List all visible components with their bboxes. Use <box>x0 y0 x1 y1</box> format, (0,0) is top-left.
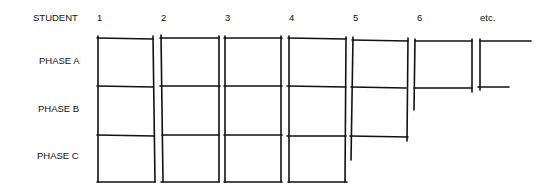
student-6-cells <box>414 39 472 110</box>
phase-grid <box>0 0 556 193</box>
student-1-cells <box>97 36 155 182</box>
student-5-cells <box>350 37 408 160</box>
student-2-cells <box>160 35 220 182</box>
student-4-cells <box>287 36 347 182</box>
student-3-cells <box>224 36 282 182</box>
etc-cells <box>478 39 531 90</box>
